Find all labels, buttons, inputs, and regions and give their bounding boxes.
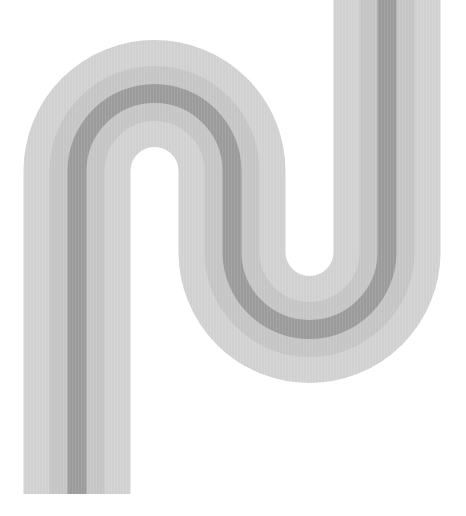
texture-overlay <box>77 0 387 494</box>
artwork-canvas <box>0 0 466 516</box>
serpentine-graphic <box>0 0 466 516</box>
band-group <box>77 0 387 494</box>
